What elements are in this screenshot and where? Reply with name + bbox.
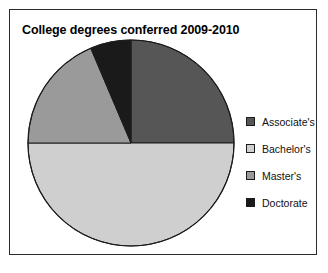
legend-item[interactable]: Associate's xyxy=(246,108,328,135)
legend-swatch-icon xyxy=(246,198,255,207)
legend-swatch-icon xyxy=(246,144,255,153)
legend-item[interactable]: Master's xyxy=(246,162,328,189)
chart-frame: College degrees conferred 2009-2010 Asso… xyxy=(9,9,317,255)
pie-slice-group xyxy=(28,40,234,246)
pie-slice[interactable] xyxy=(28,143,234,246)
legend-item-label: Doctorate xyxy=(262,197,308,209)
legend-item-label: Master's xyxy=(262,170,301,182)
legend-item-label: Bachelor's xyxy=(262,143,311,155)
legend-item[interactable]: Doctorate xyxy=(246,189,328,216)
pie-chart xyxy=(23,35,239,251)
legend-swatch-icon xyxy=(246,117,255,126)
pie-svg xyxy=(23,35,239,251)
legend-swatch-icon xyxy=(246,171,255,180)
legend-item[interactable]: Bachelor's xyxy=(246,135,328,162)
legend-item-label: Associate's xyxy=(262,116,315,128)
pie-slice[interactable] xyxy=(131,40,234,143)
chart-legend: Associate'sBachelor'sMaster'sDoctorate xyxy=(246,108,328,216)
